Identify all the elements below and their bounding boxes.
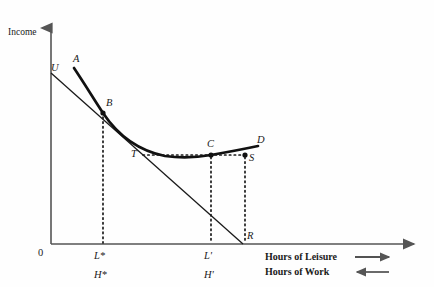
point-marker-b xyxy=(100,110,105,115)
figure-canvas: Income 0 U A B T C D S R L* H* L' H' Hou… xyxy=(0,0,434,287)
point-label-c: C xyxy=(207,139,214,150)
budget-line xyxy=(51,73,243,244)
point-label-r: R xyxy=(247,231,253,242)
point-marker-c xyxy=(208,152,213,157)
labor-leisure-diagram xyxy=(0,0,434,287)
tick-label-leisure-star: L* xyxy=(94,251,105,262)
point-label-b: B xyxy=(106,98,112,109)
origin-label: 0 xyxy=(38,248,43,259)
point-label-u: U xyxy=(51,63,59,74)
point-label-s: S xyxy=(249,153,254,164)
tick-label-leisure-prime: L' xyxy=(204,251,212,262)
point-label-d: D xyxy=(257,135,265,146)
legend-label-hours-of-work: Hours of Work xyxy=(265,267,329,277)
tick-label-work-star: H* xyxy=(94,270,107,281)
tick-label-work-prime: H' xyxy=(204,270,214,281)
point-label-a: A xyxy=(73,54,79,65)
point-marker-s xyxy=(242,152,247,157)
y-axis-title: Income xyxy=(8,28,37,38)
legend-label-hours-of-leisure: Hours of Leisure xyxy=(265,252,337,262)
point-label-t: T xyxy=(131,149,137,160)
